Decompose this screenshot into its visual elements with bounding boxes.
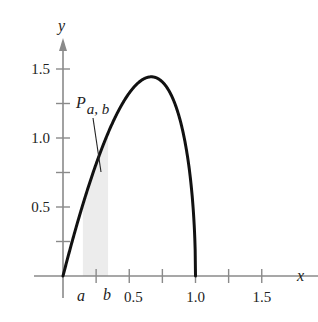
x-tick-label: 0.5 bbox=[124, 289, 143, 305]
y-tick-label: 1.0 bbox=[31, 130, 50, 146]
x-axis-label: x bbox=[296, 267, 304, 284]
shaded-region bbox=[83, 133, 108, 276]
y-tick-label: 1.5 bbox=[31, 61, 50, 77]
b-label: b bbox=[103, 286, 111, 303]
chart-plot: 0.51.01.50.51.01.5 Pa, b y x a b bbox=[0, 0, 318, 322]
axes bbox=[34, 38, 318, 298]
a-label: a bbox=[77, 287, 85, 304]
x-tick-label: 1.5 bbox=[252, 289, 271, 305]
ticks: 0.51.01.50.51.01.5 bbox=[31, 61, 271, 305]
y-axis-label: y bbox=[56, 17, 66, 35]
x-tick-label: 1.0 bbox=[186, 289, 205, 305]
annotation-p-ab: Pa, b bbox=[75, 94, 110, 117]
y-tick-label: 0.5 bbox=[31, 199, 50, 215]
